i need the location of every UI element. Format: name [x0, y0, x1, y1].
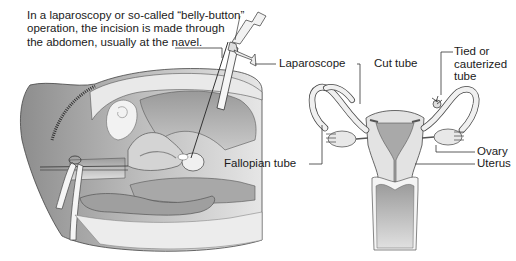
label-tied-line-1: Tied or	[454, 45, 507, 58]
caption-line-2: operation, the incision is made through	[27, 22, 257, 35]
label-tied-tube: Tied or cauterized tube	[454, 45, 507, 83]
left-ligament	[356, 138, 368, 139]
caption-line-3: the abdomen, usually at the navel.	[27, 36, 257, 49]
ovary-leader	[436, 145, 475, 152]
left-ovary	[328, 131, 356, 147]
label-laparoscope: Laparoscope	[279, 57, 346, 70]
diagram-stage: In a laparoscopy or so-called “belly-but…	[0, 0, 516, 261]
frontal-uterus	[312, 87, 476, 250]
label-cut-tube: Cut tube	[374, 57, 417, 70]
vagina-frontal	[376, 184, 414, 248]
caption-line-1: In a laparoscopy or so-called “belly-but…	[27, 9, 257, 22]
left-tube	[312, 87, 366, 130]
cut-tube-leader	[357, 64, 360, 104]
caption-leader	[175, 48, 222, 58]
tube-end	[178, 154, 188, 160]
tied-tube-leader	[441, 52, 453, 95]
scope-eyepiece	[234, 50, 256, 66]
label-tied-line-2: cauterized	[454, 58, 507, 71]
right-ligament	[422, 137, 434, 138]
right-ovary	[434, 129, 462, 145]
label-uterus: Uterus	[477, 157, 511, 170]
caption: In a laparoscopy or so-called “belly-but…	[27, 9, 257, 49]
label-tied-line-3: tube	[454, 70, 507, 83]
label-fallopian-tube: Fallopian tube	[224, 157, 296, 170]
